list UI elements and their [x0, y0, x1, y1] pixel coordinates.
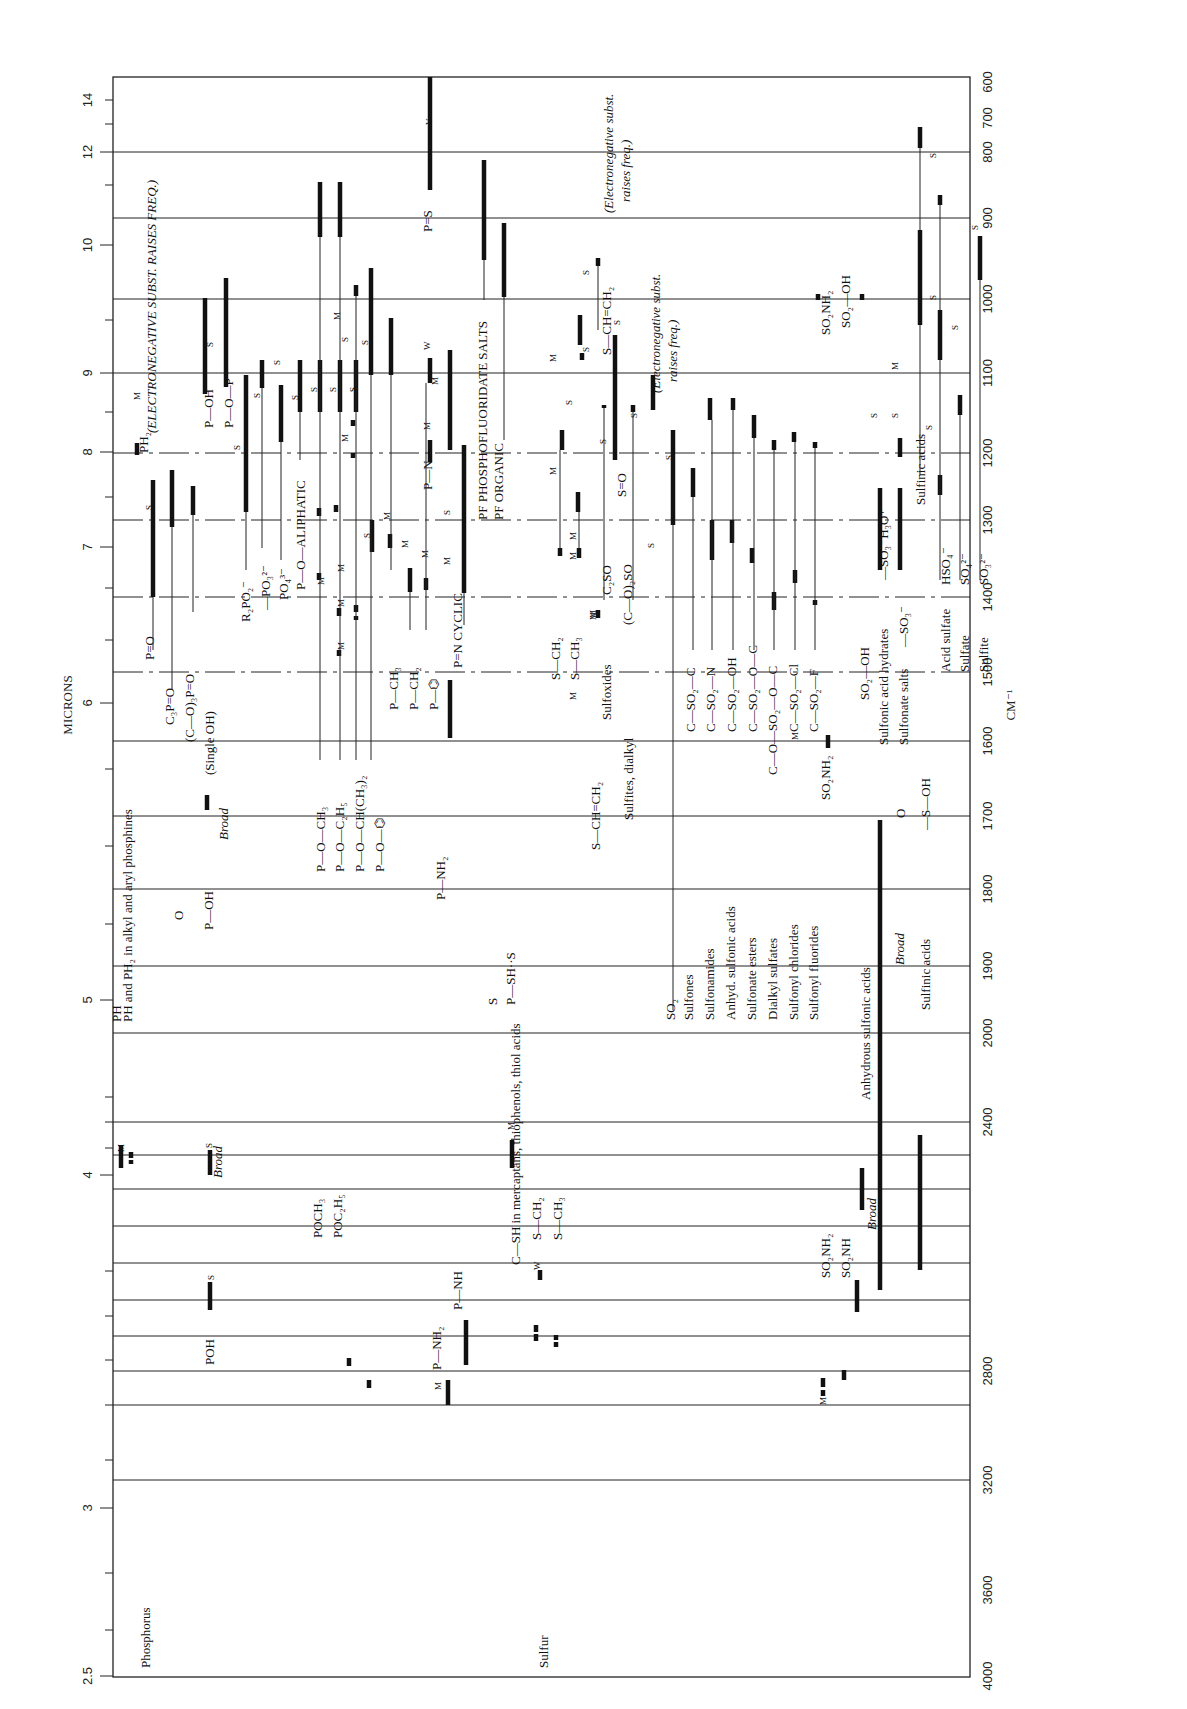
tick-10: 10 — [80, 238, 95, 252]
svg-text:M: M — [568, 552, 578, 560]
label-so2: SO₂ — [663, 999, 678, 1020]
label-s-ch3-str: S—CH₃ — [550, 1197, 565, 1240]
label-o-double: O — [171, 911, 186, 920]
label-p-o-ipr: P—O—CH(CH₃)₂ — [352, 776, 367, 872]
label-r2po2: R₂PO₂⁻ — [238, 581, 253, 622]
micron-axis-title: MICRONS — [60, 675, 75, 734]
note-electroneg-1a: (Electronegative subst. — [601, 94, 616, 213]
wn-800: 800 — [980, 141, 995, 163]
label-s-ch2-def: S—CH₂ — [548, 637, 563, 680]
svg-text:S: S — [581, 270, 591, 275]
svg-text:M: M — [336, 564, 346, 572]
note-electroneg-2b: raises freq.) — [665, 320, 680, 382]
svg-text:S: S — [442, 510, 452, 515]
tick-3: 3 — [80, 1504, 95, 1511]
section-phosphorus: Phosphorus — [138, 1607, 153, 1668]
label-p-nh2-def: P—NH₂ — [433, 856, 448, 900]
label-c2so: C₂SO — [599, 565, 614, 595]
label-p-n: P—N — [420, 460, 435, 490]
group-labels: Phosphorus PH PH and PH₂ in alkyl and ar… — [109, 94, 991, 1668]
label-p-ch3: P—CH₃ — [386, 667, 401, 710]
svg-text:M: M — [132, 392, 142, 400]
wn-1000: 1000 — [980, 285, 995, 314]
svg-text:S: S — [564, 400, 574, 405]
svg-text:S: S — [204, 1143, 214, 1148]
label-sulfonyl-fluorides: Sulfonyl fluorides — [806, 926, 821, 1020]
label-p-o-ch3: P—O—CH₃ — [313, 807, 328, 872]
label-po4: PO₄³⁻ — [276, 568, 291, 600]
label-s-double: S — [485, 998, 500, 1005]
svg-text:S: S — [328, 387, 338, 392]
section-sulfur: Sulfur — [536, 1635, 551, 1668]
label-poh: POH — [202, 1339, 217, 1365]
label-sulfones: Sulfones — [681, 975, 696, 1021]
wn-600: 600 — [980, 71, 995, 93]
svg-text:M: M — [340, 434, 350, 442]
wn-900: 900 — [980, 207, 995, 229]
label-sulfite: Sulfite — [976, 637, 991, 672]
tick-9: 9 — [80, 369, 95, 376]
label-sulfites-dialkyl: Sulfites, dialkyl — [621, 737, 636, 820]
wn-2400: 2400 — [980, 1108, 995, 1137]
svg-text:S: S — [252, 393, 262, 398]
label-sulfonyl-chlorides: Sulfonyl chlorides — [786, 924, 801, 1020]
label-ph-ph2-phosphines: PH and PH₂ in alkyl and aryl phosphines — [120, 809, 135, 1022]
tick-6: 6 — [80, 699, 95, 706]
label-c-so2-oh: C—SO₂—OH — [724, 657, 739, 732]
svg-text:S: S — [890, 413, 900, 418]
grid-lines — [113, 152, 970, 1480]
svg-text:S: S — [928, 295, 938, 300]
label-so3: SO₃²⁻ — [976, 553, 991, 585]
wn-3600: 3600 — [980, 1576, 995, 1605]
svg-text:W: W — [422, 341, 432, 350]
label-s-eq-o: S=O — [614, 473, 629, 497]
svg-text:M: M — [422, 422, 432, 430]
label-c3p-o: C₃P=O — [162, 688, 177, 725]
svg-text:M: M — [568, 692, 578, 700]
label-s-vinyl: S—CH=CH₂ — [588, 782, 603, 850]
svg-text:M: M — [506, 1122, 516, 1130]
label-anhyd-sulfonic: Anhyd. sulfonic acids — [723, 906, 738, 1020]
tick-4: 4 — [80, 1171, 95, 1178]
svg-text:S: S — [340, 337, 350, 342]
label-po3: —PO₃²⁻ — [258, 565, 273, 611]
wn-3200: 3200 — [980, 1466, 995, 1495]
wn-1300: 1300 — [980, 506, 995, 535]
svg-text:M: M — [442, 557, 452, 565]
tick-8: 8 — [80, 448, 95, 455]
wavenumber-axis-title: CM⁻¹ — [1003, 689, 1018, 720]
svg-text:M: M — [433, 1382, 443, 1390]
label-c-so2-o-c: C—SO₂—O—C — [745, 645, 760, 732]
svg-text:M: M — [890, 362, 900, 370]
note-electronegative-caps: (ELECTRONEGATIVE SUBST. RAISES FREQ.) — [144, 180, 159, 433]
ir-correlation-chart: 2.5 3 4 5 6 7 8 9 10 12 14 MICRONS 4000 … — [0, 0, 1187, 1709]
label-p-o-aliphatic: P—O—ALIPHATIC — [293, 480, 308, 590]
wn-1400: 1400 — [980, 583, 995, 612]
micron-axis — [100, 100, 113, 1676]
micron-tick-labels: 2.5 3 4 5 6 7 8 9 10 12 14 MICRONS — [60, 93, 95, 1685]
svg-text:S: S — [924, 425, 934, 430]
svg-text:M: M — [336, 642, 346, 650]
label-s-ch2-str: S—CH₂ — [529, 1197, 544, 1240]
label-p-o-p: P—O—P — [221, 378, 236, 428]
tick-5: 5 — [80, 996, 95, 1003]
wn-1700: 1700 — [980, 802, 995, 831]
svg-text:S: S — [581, 347, 591, 352]
tick-2-5: 2.5 — [80, 1667, 95, 1685]
wn-2000: 2000 — [980, 1019, 995, 1048]
label-so2-oh: SO₂—OH — [857, 647, 872, 700]
tick-12: 12 — [80, 145, 95, 159]
svg-text:M: M — [400, 540, 410, 548]
svg-text:M: M — [336, 599, 346, 607]
svg-text:S: S — [629, 413, 639, 418]
label-so2-oh-900: SO₂—OH — [838, 275, 853, 328]
wn-700: 700 — [980, 107, 995, 129]
svg-text:M: M — [818, 1397, 828, 1405]
label-sulfoxides: Sulfoxides — [599, 664, 614, 720]
wn-1100: 1100 — [980, 359, 995, 387]
label-co3p-o: (C—O)₃P=O — [182, 674, 197, 742]
label-s-oh: —S—OH — [918, 778, 933, 831]
label-dialkyl-sulfates: Dialkyl sulfates — [765, 938, 780, 1020]
label-so3-minus: —SO₃⁻ — [896, 606, 911, 648]
label-sulfonamides: Sulfonamides — [702, 949, 717, 1021]
